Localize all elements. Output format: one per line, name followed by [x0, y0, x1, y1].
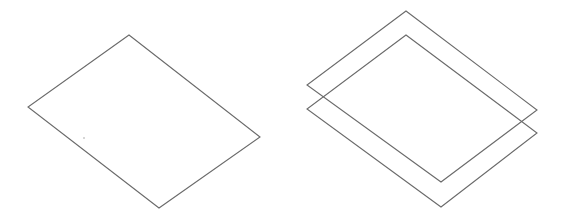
plane-shape-upper: [307, 11, 537, 182]
panel-single-plane: [28, 35, 260, 208]
plane-shape-lower: [307, 35, 537, 207]
plane-shape: [28, 35, 260, 208]
figure-canvas: [0, 0, 563, 219]
panel-two-stacked-planes: [307, 11, 537, 207]
scan-speck: [83, 137, 85, 139]
